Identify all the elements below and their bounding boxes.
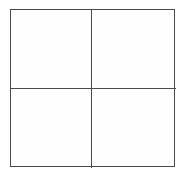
quadrant-cell-bottom-right[interactable]: [93, 88, 175, 166]
quadrant-grid-frame: [10, 9, 175, 167]
diagram-canvas: [0, 0, 182, 176]
horizontal-divider-line: [11, 88, 176, 90]
quadrant-cell-top-left[interactable]: [11, 10, 93, 88]
vertical-divider-line: [91, 10, 93, 168]
quadrant-cell-top-right[interactable]: [93, 10, 175, 88]
quadrant-cell-bottom-left[interactable]: [11, 88, 93, 166]
